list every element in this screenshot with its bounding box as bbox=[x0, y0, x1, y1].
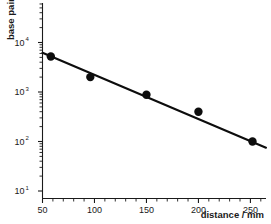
x-axis-title: distance / mm bbox=[201, 209, 264, 220]
y-tick-label: 102 bbox=[14, 135, 29, 147]
y-tick-label: 101 bbox=[14, 185, 29, 197]
y-tick-mantissa: 10 bbox=[14, 186, 24, 196]
data-point bbox=[86, 73, 94, 81]
y-tick-exponent: 3 bbox=[26, 86, 30, 92]
y-axis-title: base pairs bbox=[5, 0, 16, 40]
y-tick-mantissa: 10 bbox=[14, 137, 24, 147]
trend-line bbox=[43, 53, 267, 148]
x-tick-label: 50 bbox=[37, 205, 47, 215]
y-tick-label: 103 bbox=[14, 86, 29, 98]
y-axis-major-ticks bbox=[38, 43, 43, 192]
log-linear-scatter-chart: 101102103104 base pairs 50100150200250 d… bbox=[0, 0, 271, 224]
data-point bbox=[194, 108, 202, 116]
x-tick-label: 100 bbox=[87, 205, 102, 215]
y-tick-label: 104 bbox=[14, 36, 29, 48]
plot-area bbox=[43, 52, 267, 147]
x-axis: 50100150200250 distance / mm bbox=[37, 199, 266, 221]
y-tick-exponent: 4 bbox=[26, 36, 30, 42]
y-tick-exponent: 1 bbox=[26, 185, 30, 191]
data-point bbox=[142, 91, 150, 99]
x-axis-minor-ticks bbox=[53, 199, 261, 202]
y-tick-exponent: 2 bbox=[26, 135, 30, 141]
y-axis-tick-labels: 101102103104 bbox=[14, 36, 29, 196]
chart-canvas: 101102103104 base pairs 50100150200250 d… bbox=[0, 0, 271, 224]
y-axis: 101102103104 base pairs bbox=[5, 0, 43, 199]
data-point bbox=[248, 137, 256, 145]
data-point bbox=[47, 52, 55, 60]
y-tick-mantissa: 10 bbox=[14, 87, 24, 97]
x-tick-label: 150 bbox=[139, 205, 154, 215]
